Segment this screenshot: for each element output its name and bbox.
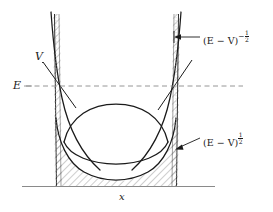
turning-point-strip-left (53, 14, 62, 186)
leader-amplitude-inner (175, 138, 200, 150)
energy-label: E (13, 80, 21, 91)
lens-white-region (70, 110, 162, 154)
amplitude-inner-exponent-denominator: 2 (238, 139, 243, 145)
amplitude-inner-label: (E − V)12 (203, 133, 243, 147)
amplitude-outer-label: (E − V)−12 (203, 31, 249, 45)
amplitude-inner-base: (E − V) (203, 137, 238, 148)
amplitude-outer-base: (E − V) (203, 35, 238, 46)
amplitude-outer-exponent-denominator: 2 (245, 37, 250, 43)
amplitude-outer-exponent: −12 (238, 30, 249, 44)
turning-point-guides (56, 14, 176, 186)
potential-label: V (35, 51, 43, 62)
wkb-potential-well-figure: V E x (E − V)−12 (E − V)12 (0, 0, 273, 212)
amplitude-inner-exponent: 12 (238, 132, 243, 146)
x-axis-label: x (119, 192, 125, 202)
